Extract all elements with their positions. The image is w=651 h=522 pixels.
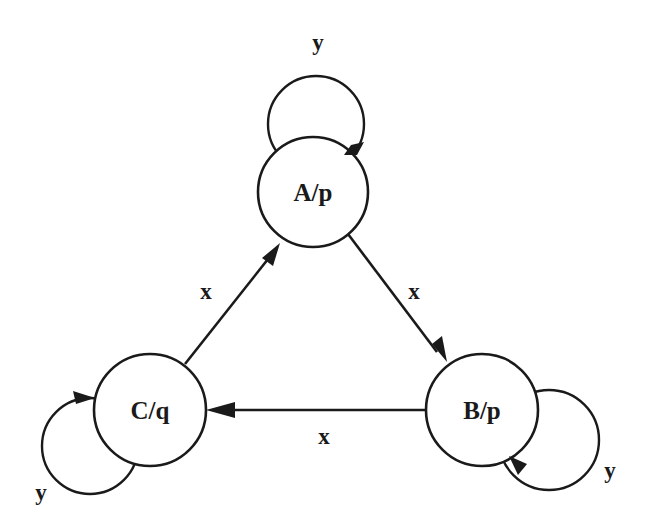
edge-a-b	[348, 234, 437, 352]
arrowhead-b-c	[206, 402, 235, 418]
label-c-c: y	[35, 480, 47, 505]
label-c-a: x	[200, 279, 212, 304]
state-a-label: A/p	[294, 179, 333, 206]
state-diagram: A/p B/p C/q y x y x y x	[0, 0, 651, 522]
label-b-b: y	[604, 458, 616, 483]
state-c-label: C/q	[131, 397, 170, 424]
label-b-c: x	[318, 424, 330, 449]
label-a-a: y	[312, 30, 324, 55]
state-b: B/p	[426, 354, 538, 466]
state-c: C/q	[94, 354, 206, 466]
edge-c-a	[185, 254, 272, 364]
state-b-label: B/p	[463, 397, 501, 424]
label-a-b: x	[408, 279, 420, 304]
arrowhead-c-c	[73, 391, 95, 404]
